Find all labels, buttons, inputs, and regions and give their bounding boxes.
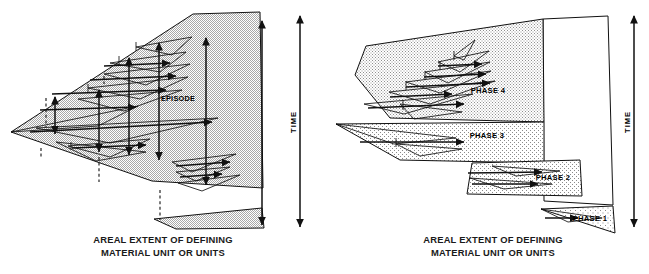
diagram-svg: EPISODE TIME AREAL EXTENT OF DEFINING MA… (0, 0, 649, 274)
caption-line-1-left: AREAL EXTENT OF DEFINING (93, 234, 233, 245)
caption-line-2-left: MATERIAL UNIT OR UNITS (101, 247, 225, 258)
phase-3-label: PHASE 3 (470, 131, 505, 140)
caption-line-2-right: MATERIAL UNIT OR UNITS (431, 247, 555, 258)
phase-2-label: PHASE 2 (536, 173, 571, 182)
time-axis-label-left: TIME (289, 111, 298, 133)
figure-root: EPISODE TIME AREAL EXTENT OF DEFINING MA… (0, 0, 649, 274)
time-axis-label-right: TIME (623, 111, 632, 133)
caption-line-1-right: AREAL EXTENT OF DEFINING (423, 234, 563, 245)
phase-1-label: PHASE 1 (573, 214, 608, 223)
phase-4-label: PHASE 4 (471, 86, 506, 95)
phase-extent-arrow (468, 172, 542, 173)
episode-label: EPISODE (161, 94, 195, 103)
